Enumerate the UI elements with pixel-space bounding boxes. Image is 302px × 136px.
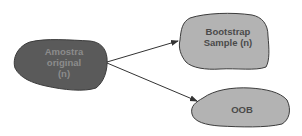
bootstrap-sample-label: Bootstrap Sample (n) (196, 26, 260, 48)
bootstrap-diagram: Amostra original (n) Bootstrap Sample (n… (0, 0, 302, 136)
original-sample-label: Amostra original (n) (38, 46, 90, 79)
original-label-line-2: original (38, 57, 90, 68)
original-label-line-3: (n) (38, 68, 90, 79)
oob-label: OOB (220, 104, 264, 115)
oob-label-line-1: OOB (220, 104, 264, 115)
arrow-to-oob (107, 63, 197, 101)
bootstrap-label-line-1: Bootstrap (196, 26, 260, 37)
original-label-line-1: Amostra (38, 46, 90, 57)
arrow-to-bootstrap (107, 41, 178, 62)
bootstrap-label-line-2: Sample (n) (196, 37, 260, 48)
